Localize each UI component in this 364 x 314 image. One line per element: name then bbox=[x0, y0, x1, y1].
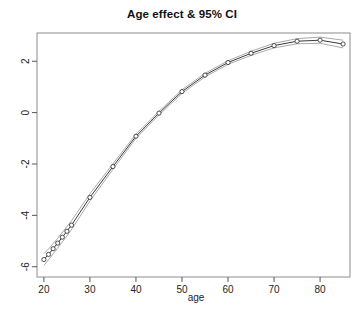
data-point bbox=[51, 247, 55, 251]
data-point bbox=[318, 38, 322, 42]
data-point bbox=[157, 111, 161, 115]
data-point bbox=[295, 39, 299, 43]
data-point bbox=[111, 164, 115, 168]
y-tick-label: -6 bbox=[21, 262, 32, 271]
data-point bbox=[42, 257, 46, 261]
y-axis: 20-2-4-6 bbox=[21, 58, 38, 271]
series-line bbox=[44, 40, 343, 259]
x-tick-label: 70 bbox=[268, 284, 280, 295]
ci-upper-line bbox=[44, 37, 343, 254]
data-point bbox=[65, 229, 69, 233]
y-tick-label: 2 bbox=[21, 58, 32, 64]
age-effect-line bbox=[44, 40, 343, 259]
data-point bbox=[180, 89, 184, 93]
x-tick-label: 80 bbox=[315, 284, 327, 295]
y-tick-label: -2 bbox=[21, 159, 32, 168]
confidence-interval-band bbox=[44, 37, 343, 265]
x-tick-label: 30 bbox=[84, 284, 96, 295]
data-point bbox=[56, 241, 60, 245]
data-point bbox=[88, 195, 92, 199]
data-point bbox=[249, 51, 253, 55]
chart-figure: Age effect & 95% CI 20-2-4-6 20304050607… bbox=[0, 0, 364, 314]
data-point bbox=[69, 223, 73, 227]
data-point bbox=[226, 60, 230, 64]
x-tick-label: 60 bbox=[222, 284, 234, 295]
data-point bbox=[46, 252, 50, 256]
data-point bbox=[134, 134, 138, 138]
x-tick-label: 40 bbox=[130, 284, 142, 295]
ci-lower-line bbox=[44, 43, 343, 265]
x-axis: 20304050607080 bbox=[38, 277, 326, 295]
data-point bbox=[60, 235, 64, 239]
y-tick-label: -4 bbox=[21, 210, 32, 219]
series-points bbox=[42, 38, 345, 262]
y-tick-label: 0 bbox=[21, 109, 32, 115]
x-tick-label: 20 bbox=[38, 284, 50, 295]
plot-frame bbox=[37, 33, 350, 277]
data-point bbox=[203, 73, 207, 77]
x-axis-title: age bbox=[188, 292, 205, 303]
x-tick-label: 50 bbox=[176, 284, 188, 295]
chart-plot-area: 20-2-4-6 20304050607080 age bbox=[0, 0, 364, 314]
data-point bbox=[272, 43, 276, 47]
data-point bbox=[341, 42, 345, 46]
